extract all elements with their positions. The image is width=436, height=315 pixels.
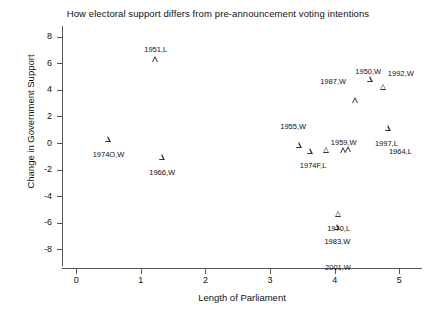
data-point-label: 1987,W xyxy=(320,78,346,86)
y-tick-label: -4 xyxy=(8,192,52,201)
data-point-label: 1970,L xyxy=(327,225,350,233)
y-tick-label: -2 xyxy=(8,165,52,174)
data-point-marker xyxy=(335,211,341,217)
y-tick-label: 6 xyxy=(8,59,52,68)
data-point-label: 1964,L xyxy=(389,148,412,156)
data-point-marker xyxy=(105,136,111,142)
x-axis-title: Length of Parliament xyxy=(62,292,422,303)
x-axis-line xyxy=(62,268,422,269)
x-tick-mark xyxy=(76,269,77,274)
data-point-label: 1974F,L xyxy=(300,162,327,170)
data-point-label: 1959,W xyxy=(331,139,357,147)
data-point-label: 2001,W xyxy=(325,264,351,272)
x-tick-label: 0 xyxy=(61,276,91,285)
data-point-marker xyxy=(323,147,329,153)
data-point-label: 1983,W xyxy=(324,238,350,246)
x-tick-label: 3 xyxy=(255,276,285,285)
data-point-label: 1950,W xyxy=(355,68,381,76)
data-point-label: 1974O,W xyxy=(93,151,125,159)
data-point-marker xyxy=(307,148,313,154)
y-tick-label: 4 xyxy=(8,85,52,94)
x-tick-label: 1 xyxy=(126,276,156,285)
y-tick-label: -6 xyxy=(8,218,52,227)
x-tick-label: 5 xyxy=(384,276,414,285)
data-point-marker xyxy=(352,97,358,103)
data-point-marker xyxy=(385,125,391,131)
x-tick-label: 2 xyxy=(190,276,220,285)
y-tick-label: 0 xyxy=(8,139,52,148)
x-tick-mark xyxy=(270,269,271,274)
data-point-label: 1966,W xyxy=(149,169,175,177)
data-point-label: 1992,W xyxy=(388,70,414,78)
data-point-marker xyxy=(380,84,386,90)
data-point-label: 1951,L xyxy=(144,46,167,54)
data-point-marker xyxy=(152,56,158,62)
scatter-plot-figure: How electoral support differs from pre-a… xyxy=(0,0,436,315)
data-point-marker xyxy=(159,154,165,160)
x-tick-mark xyxy=(205,269,206,274)
y-tick-label: -8 xyxy=(8,245,52,254)
chart-title: How electoral support differs from pre-a… xyxy=(0,8,436,19)
x-tick-mark xyxy=(141,269,142,274)
plot-area xyxy=(62,26,422,268)
y-tick-label: 2 xyxy=(8,112,52,121)
x-tick-label: 4 xyxy=(320,276,350,285)
data-point-label: 1955,W xyxy=(280,123,306,131)
y-tick-label: 8 xyxy=(8,32,52,41)
x-tick-mark xyxy=(399,269,400,274)
data-point-marker xyxy=(367,76,373,82)
data-point-marker xyxy=(296,142,302,148)
